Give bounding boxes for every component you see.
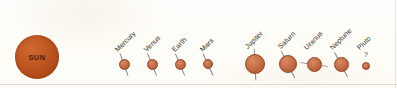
planet-body-earth — [175, 59, 186, 70]
pluto-question-mark: ? — [364, 51, 368, 58]
scan-edge-right — [395, 0, 396, 88]
planet-body-venus — [147, 59, 158, 70]
planet-body-jupiter — [245, 54, 265, 74]
planet-label-mars: Mars — [199, 37, 215, 53]
planet-body-mars — [203, 59, 213, 69]
planet-label-mercury: Mercury — [114, 30, 137, 53]
planet-label-neptune: Neptune — [329, 27, 353, 51]
planet-body-neptune — [334, 57, 349, 72]
solar-system-diagram: SUN MercuryVenusEarthMarsJupiterSaturnUr… — [0, 0, 397, 88]
sun-body: SUN — [15, 35, 59, 79]
planet-label-uranus: Uranus — [303, 30, 324, 51]
scan-edge-bottom — [0, 84, 397, 85]
planet-label-venus: Venus — [143, 34, 162, 53]
planet-body-mercury — [119, 59, 130, 70]
planet-label-pluto: Pluto — [356, 34, 373, 51]
planet-label-saturn: Saturn — [277, 30, 297, 50]
sun-label: SUN — [28, 53, 45, 62]
planet-label-earth: Earth — [171, 36, 188, 53]
planet-label-jupiter: Jupiter — [244, 30, 264, 50]
planet-body-uranus — [307, 57, 322, 72]
planet-body-pluto — [362, 62, 370, 70]
planet-body-saturn — [279, 55, 297, 73]
